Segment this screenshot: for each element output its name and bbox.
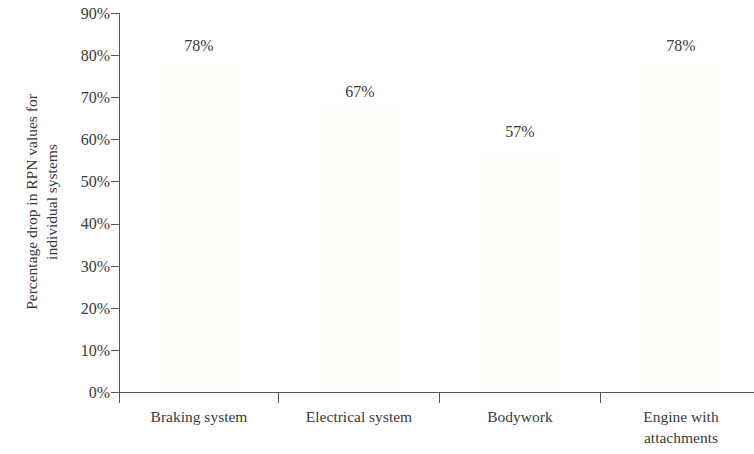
plot-area xyxy=(120,13,754,392)
x-axis-line xyxy=(119,392,754,393)
y-axis-title-line-1: Percentage drop in RPN values for xyxy=(22,12,42,392)
x-category-line: Electrical system xyxy=(274,406,444,427)
bar-electrical-system xyxy=(323,110,399,392)
x-category-line: Engine with xyxy=(596,406,754,427)
y-tick-label-70: 70% xyxy=(40,90,110,106)
x-category-line: attachments xyxy=(596,427,754,448)
bar-braking-system xyxy=(162,64,238,392)
y-tick-label-80: 80% xyxy=(40,48,110,64)
y-tick-label-50: 50% xyxy=(40,174,110,190)
y-tick-label-0: 0% xyxy=(40,385,110,401)
data-label-bodywork: 57% xyxy=(475,124,565,140)
data-label-engine-with-attachments: 78% xyxy=(636,38,726,54)
data-label-electrical-system: 67% xyxy=(315,84,405,100)
y-tick-label-10: 10% xyxy=(40,343,110,359)
x-category-label-electrical-system: Electrical system xyxy=(274,406,444,427)
bar-bodywork xyxy=(484,152,560,392)
x-category-label-bodywork: Bodywork xyxy=(435,406,605,427)
y-tick-label-20: 20% xyxy=(40,301,110,317)
bar-engine-with-attachments xyxy=(644,64,720,392)
x-category-line: Braking system xyxy=(114,406,284,427)
x-category-line: Bodywork xyxy=(435,406,605,427)
y-tick-label-30: 30% xyxy=(40,259,110,275)
y-axis-tick-labels: 90% 80% 70% 60% 50% 40% 30% 20% 10% 0% xyxy=(40,0,110,454)
x-tick-mark-1 xyxy=(278,393,279,403)
x-tick-mark-2 xyxy=(439,393,440,403)
y-tick-label-90: 90% xyxy=(40,6,110,22)
x-tick-mark-3 xyxy=(600,393,601,403)
bar-chart: Percentage drop in RPN values for indivi… xyxy=(0,0,754,454)
x-category-label-braking-system: Braking system xyxy=(114,406,284,427)
x-tick-mark-0 xyxy=(119,393,120,403)
data-label-braking-system: 78% xyxy=(154,38,244,54)
y-tick-label-60: 60% xyxy=(40,132,110,148)
x-category-label-engine-with-attachments: Engine with attachments xyxy=(596,406,754,448)
y-tick-label-40: 40% xyxy=(40,216,110,232)
